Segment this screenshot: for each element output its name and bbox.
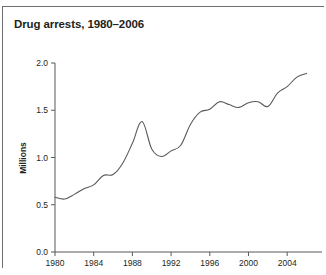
drug-arrests-line-series [55,73,307,199]
x-tick-label: 1984 [84,258,103,268]
x-tick-label: 1988 [123,258,142,268]
y-tick-label: 0.5 [36,200,48,210]
x-axis-tick-labels: 1980198419881992199620002004 [46,258,297,268]
x-tick-label: 1996 [200,258,219,268]
y-tick-label: 2.0 [36,58,48,68]
y-tick-label: 1.5 [36,105,48,115]
y-axis-ticks [51,63,55,252]
y-tick-label: 0.0 [36,247,48,257]
x-axis-ticks [55,252,287,256]
chart-figure: Drug arrests, 1980–2006 0.00.51.01.52.0 … [0,0,326,275]
y-axis-tick-labels: 0.00.51.01.52.0 [36,58,48,257]
x-tick-label: 1992 [162,258,181,268]
x-tick-label: 1980 [46,258,65,268]
y-tick-label: 1.0 [36,153,48,163]
x-tick-label: 2000 [239,258,258,268]
x-tick-label: 2004 [278,258,297,268]
plot-area: 0.00.51.01.52.0 198019841988199219962000… [0,0,326,275]
y-axis-title: Millions [18,142,28,174]
